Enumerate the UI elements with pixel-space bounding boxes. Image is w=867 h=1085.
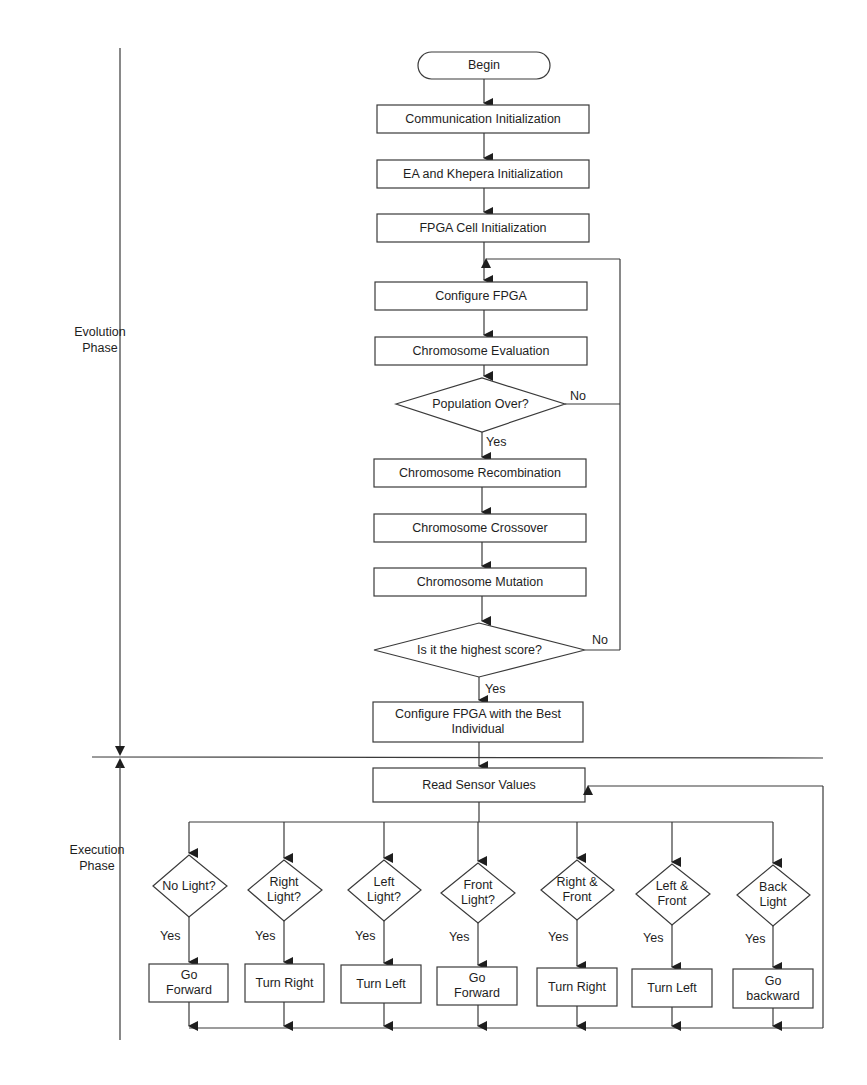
branch-yes-label: Yes (745, 932, 765, 946)
evolution-axis-arrow-icon (115, 746, 125, 756)
phase-divider (92, 757, 823, 758)
chromosome-recombination-label: Chromosome Recombination (374, 459, 586, 487)
ea-khepera-init-label: EA and Khepera Initialization (377, 160, 589, 188)
communication-init-label: Communication Initialization (377, 105, 589, 133)
branch-condition-label: Back Light (746, 875, 800, 915)
highest-score-label: Is it the highest score? (374, 640, 585, 660)
branch-condition-label: Left Light? (355, 870, 413, 910)
branch-condition-label: Left & Front (643, 874, 701, 914)
highest-score-yes-label: Yes (485, 682, 505, 696)
branch-yes-label: Yes (160, 929, 180, 943)
branch-yes-label: Yes (449, 930, 469, 944)
branch-condition-label: No Light? (160, 866, 218, 906)
population-over-label: Population Over? (396, 394, 565, 414)
read-sensor-label: Read Sensor Values (373, 768, 585, 802)
configure-fpga-label: Configure FPGA (375, 282, 587, 310)
population-over-yes-label: Yes (486, 435, 506, 449)
branch-action-label: Go Forward (447, 967, 507, 1005)
branch-yes-label: Yes (548, 930, 568, 944)
chromosome-mutation-label: Chromosome Mutation (374, 568, 586, 596)
branch-action-label: Go backward (738, 969, 808, 1008)
branch-yes-label: Yes (643, 931, 663, 945)
chromosome-crossover-label: Chromosome Crossover (374, 514, 586, 542)
begin-label: Begin (418, 52, 550, 79)
branch-action-label: Turn Left (632, 969, 712, 1007)
branch-condition-label: Front Light? (449, 873, 507, 913)
population-over-no-label: No (570, 389, 586, 403)
configure-best-label: Configure FPGA with the Best Individual (373, 702, 583, 742)
branch-condition-label: Right & Front (546, 870, 608, 910)
evolution-phase-label: Evolution Phase (55, 324, 145, 356)
branch-action-label: Go Forward (159, 964, 219, 1002)
branch-action-label: Turn Right (537, 968, 617, 1006)
highest-score-no-label: No (592, 633, 608, 647)
branch-condition-label: Right Light? (255, 870, 313, 910)
branch-yes-label: Yes (355, 929, 375, 943)
fpga-cell-init-label: FPGA Cell Initialization (377, 214, 589, 242)
chromosome-evaluation-label: Chromosome Evaluation (375, 337, 587, 365)
branch-yes-label: Yes (255, 929, 275, 943)
branch-action-label: Turn Left (341, 965, 421, 1003)
execution-phase-label: Execution Phase (52, 842, 142, 874)
branch-action-label: Turn Right (245, 964, 324, 1002)
